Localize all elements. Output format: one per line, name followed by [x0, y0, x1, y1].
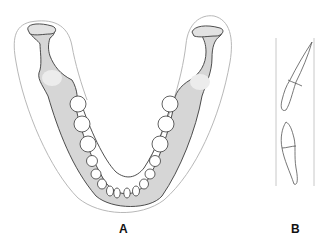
tooth-right-premolar-1	[145, 169, 155, 179]
panel-label-a: A	[119, 222, 128, 236]
left-ramus-highlight	[42, 70, 62, 86]
tooth-right-molar-3	[162, 96, 178, 112]
tooth-left-molar-2	[74, 116, 90, 132]
right-ramus-highlight	[190, 74, 210, 90]
tooth-left-premolar-2	[87, 156, 98, 167]
tooth-right-molar-1	[152, 136, 168, 152]
dental-figure	[0, 0, 318, 240]
left-condyle	[28, 24, 56, 35]
upper-incisor	[281, 42, 312, 111]
tooth-left-premolar-1	[91, 169, 101, 179]
tooth-left-central-incisor	[114, 188, 120, 198]
tooth-left-molar-1	[80, 136, 96, 152]
tooth-right-lateral-incisor	[133, 186, 140, 196]
lower-incisor	[281, 122, 297, 184]
panel-label-b: B	[291, 222, 300, 236]
right-condyle	[192, 26, 223, 37]
tooth-left-molar-3	[70, 96, 86, 112]
tooth-right-central-incisor	[124, 188, 130, 198]
tooth-left-canine	[98, 179, 107, 189]
tooth-left-lateral-incisor	[107, 186, 114, 196]
tooth-right-premolar-2	[150, 156, 161, 167]
tooth-right-canine	[140, 179, 149, 189]
tooth-right-molar-2	[158, 116, 174, 132]
